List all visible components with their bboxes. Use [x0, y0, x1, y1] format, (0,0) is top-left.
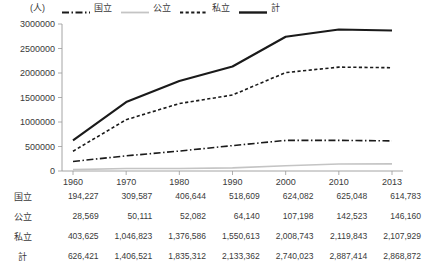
y-axis-tick-label: 1500000: [20, 93, 55, 103]
line-chart-svg: 0500000100000015000002000000250000030000…: [0, 14, 423, 186]
dash-dot-line-icon: [62, 3, 90, 12]
x-axis-tick-label: 1990: [222, 177, 242, 186]
legend-label: 国立: [94, 1, 112, 14]
series-line-公立: [73, 164, 392, 170]
table-row-label: 私立: [0, 226, 47, 246]
legend-item-total[interactable]: 計: [239, 1, 280, 14]
table-cell: 1,406,521: [101, 246, 155, 266]
chart-data-table: 国立194,227309,587406,644518,609624,082625…: [0, 186, 423, 266]
table-cell: 2,868,872: [369, 246, 423, 266]
table-row: 国立194,227309,587406,644518,609624,082625…: [0, 186, 423, 206]
dotted-line-icon: [180, 3, 208, 12]
table-cell: 50,111: [101, 206, 155, 226]
table-cell: 1,376,586: [154, 226, 208, 246]
legend-item-kokuritsu[interactable]: 国立: [62, 1, 112, 14]
table-cell: 142,523: [315, 206, 369, 226]
table-cell: 624,082: [262, 186, 316, 206]
legend-label: 私立: [212, 1, 230, 14]
y-axis-tick-label: 2500000: [20, 44, 55, 54]
legend-item-koritsu[interactable]: 公立: [121, 1, 171, 14]
table-row: 計626,4211,406,5211,835,3122,133,3622,740…: [0, 246, 423, 266]
table-cell: 309,587: [101, 186, 155, 206]
table-cell: 1,835,312: [154, 246, 208, 266]
table-cell: 28,569: [47, 206, 100, 226]
table-cell: 614,783: [369, 186, 423, 206]
table-cell: 107,198: [262, 206, 316, 226]
table-cell: 403,625: [47, 226, 100, 246]
table-row: 公立28,56950,11152,08264,140107,198142,523…: [0, 206, 423, 226]
y-axis-tick-label: 0: [50, 166, 55, 176]
legend-label: 公立: [153, 1, 171, 14]
x-axis-tick-label: 2010: [329, 177, 349, 186]
series-line-計: [73, 30, 392, 141]
y-axis-tick-label: 2000000: [20, 68, 55, 78]
table-cell: 625,048: [315, 186, 369, 206]
table-cell: 194,227: [47, 186, 100, 206]
table-cell: 2,740,023: [262, 246, 316, 266]
x-axis-tick-label: 1980: [169, 177, 189, 186]
x-axis-tick-label: 1970: [116, 177, 136, 186]
table-cell: 406,644: [154, 186, 208, 206]
legend-label: 計: [271, 1, 280, 14]
x-axis-tick-label: 2013: [382, 177, 402, 186]
table-cell: 2,887,414: [315, 246, 369, 266]
chart-legend: 国立 公立 私立 計: [62, 1, 280, 14]
table-row-label: 国立: [0, 186, 47, 206]
x-axis-tick-label: 2000: [276, 177, 296, 186]
y-axis-tick-label: 1000000: [20, 117, 55, 127]
y-axis-tick-label: 3000000: [20, 19, 55, 29]
series-line-国立: [73, 140, 392, 161]
table-cell: 1,550,613: [208, 226, 262, 246]
table-cell: 64,140: [208, 206, 262, 226]
y-axis-tick-label: 500000: [25, 142, 55, 152]
y-axis-unit-label: (人): [30, 1, 45, 14]
table-row-label: 公立: [0, 206, 47, 226]
table-cell: 626,421: [47, 246, 100, 266]
table-cell: 146,160: [369, 206, 423, 226]
legend-item-shiritsu[interactable]: 私立: [180, 1, 230, 14]
table-row: 私立403,6251,046,8231,376,5861,550,6132,00…: [0, 226, 423, 246]
table-cell: 52,082: [154, 206, 208, 226]
table-cell: 2,133,362: [208, 246, 262, 266]
solid-bold-line-icon: [239, 3, 267, 12]
solid-gray-line-icon: [121, 3, 149, 12]
chart-plot-area: 0500000100000015000002000000250000030000…: [0, 14, 423, 186]
table-cell: 518,609: [208, 186, 262, 206]
table-cell: 2,107,929: [369, 226, 423, 246]
table-cell: 2,119,843: [315, 226, 369, 246]
table-cell: 2,008,743: [262, 226, 316, 246]
chart-figure: (人) 国立 公立 私立 計 050000: [0, 0, 423, 272]
x-axis-tick-label: 1960: [63, 177, 83, 186]
series-line-私立: [73, 67, 392, 151]
table-cell: 1,046,823: [101, 226, 155, 246]
table-row-label: 計: [0, 246, 47, 266]
